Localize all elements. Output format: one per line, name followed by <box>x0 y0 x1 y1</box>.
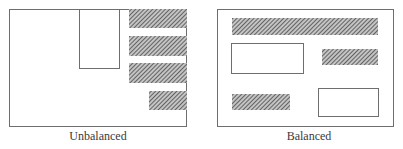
layout-balance-diagram: Unbalanced Balanced <box>0 0 403 149</box>
unbalanced-plain-box <box>80 10 120 69</box>
unbalanced-panel: Unbalanced <box>10 9 188 143</box>
balanced-label: Balanced <box>287 129 332 143</box>
unbalanced-hatched-bar-3 <box>129 63 187 83</box>
balanced-plain-box-bottom-right <box>319 89 379 117</box>
balanced-plain-box-left <box>232 44 304 74</box>
balanced-hatched-bar-top <box>232 18 378 35</box>
unbalanced-label: Unbalanced <box>69 129 126 143</box>
balanced-hatched-bar-right <box>322 49 378 65</box>
unbalanced-hatched-bar-1 <box>129 9 187 28</box>
balanced-panel: Balanced <box>218 10 394 144</box>
unbalanced-hatched-bar-4 <box>149 91 187 110</box>
balanced-hatched-bar-bottom-left <box>232 94 290 110</box>
unbalanced-hatched-bar-2 <box>129 36 187 56</box>
